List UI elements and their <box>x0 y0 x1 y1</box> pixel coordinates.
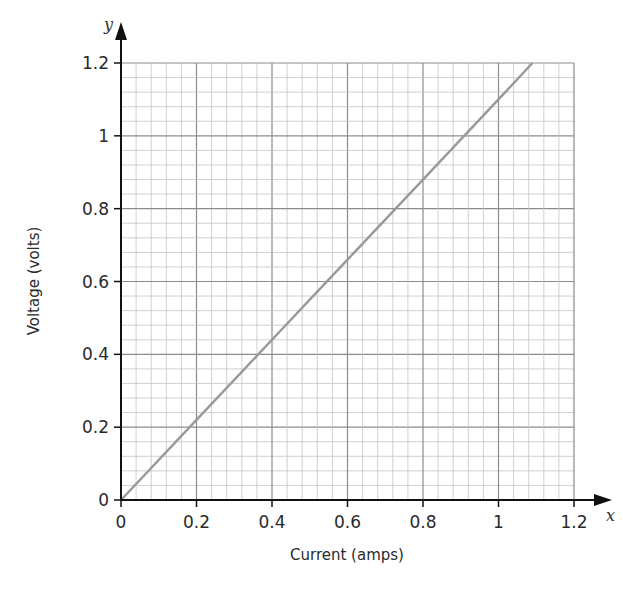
grid <box>121 63 574 500</box>
y-axis-title: Voltage (volts) <box>25 227 43 336</box>
y-tick-label: 0.8 <box>82 199 109 219</box>
x-tick-label: 0.8 <box>409 512 436 532</box>
x-tick-label: 0.6 <box>334 512 361 532</box>
x-tick-label: 0 <box>116 512 127 532</box>
y-tick-label: 0 <box>98 490 109 510</box>
y-tick-label: 1 <box>98 126 109 146</box>
chart: 00.20.40.60.811.200.20.40.60.811.2 x y C… <box>0 0 623 590</box>
y-axis-arrow-icon <box>115 22 127 40</box>
y-tick-label: 0.4 <box>82 344 109 364</box>
x-tick-label: 1 <box>493 512 504 532</box>
x-axis-title: Current (amps) <box>290 546 404 564</box>
x-axis-arrow-icon <box>594 494 612 506</box>
x-axis-variable: x <box>606 506 615 525</box>
x-tick-label: 1.2 <box>560 512 587 532</box>
axes <box>115 22 612 506</box>
y-tick-label: 1.2 <box>82 53 109 73</box>
y-tick-label: 0.6 <box>82 272 109 292</box>
x-tick-label: 0.4 <box>258 512 285 532</box>
x-tick-label: 0.2 <box>183 512 210 532</box>
y-axis-variable: y <box>103 15 114 34</box>
y-tick-label: 0.2 <box>82 417 109 437</box>
